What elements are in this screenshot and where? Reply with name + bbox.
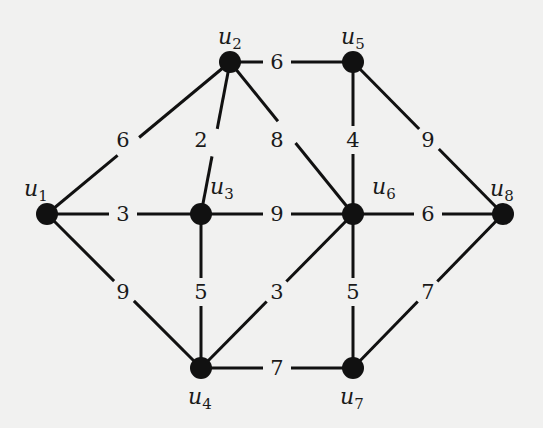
node-label-base: u (490, 176, 504, 201)
node-label-u8: u8 (490, 176, 514, 205)
edge-weight-label: 9 (116, 280, 129, 304)
edge-u2-u6 (230, 62, 353, 214)
node-label-u2: u2 (218, 24, 242, 53)
node-label-subscript: 6 (386, 185, 396, 203)
node-u4 (190, 357, 212, 379)
node-label-base: u (218, 24, 232, 49)
node-label-base: u (210, 174, 224, 199)
edge-weight-label: 3 (270, 280, 283, 304)
edge-weight-label: 9 (270, 202, 283, 226)
edge-segment (134, 301, 201, 368)
node-label-u5: u5 (341, 24, 365, 53)
edge-weight-label: 6 (116, 128, 129, 152)
edge-weight-label: 4 (346, 128, 359, 152)
node-label-base: u (372, 174, 386, 199)
node-label-base: u (341, 24, 355, 49)
node-u7 (342, 357, 364, 379)
node-label-u1: u1 (24, 176, 48, 205)
edge-segment (47, 214, 114, 281)
edge-weight-label: 8 (270, 128, 283, 152)
edge-weight-label: 5 (194, 280, 207, 304)
node-u8 (492, 203, 514, 225)
node-label-base: u (340, 384, 354, 409)
node-labels-layer: u1u2u3u4u5u6u7u8 (24, 24, 514, 413)
node-label-base: u (188, 384, 202, 409)
node-label-u4: u4 (188, 384, 212, 413)
edge-segment (437, 214, 503, 281)
edge-segment (296, 143, 353, 214)
node-label-subscript: 3 (224, 185, 234, 203)
node-label-u7: u7 (340, 384, 364, 413)
weighted-graph-diagram: 639268953749657 u1u2u3u4u5u6u7u8 (0, 0, 543, 428)
node-label-subscript: 5 (355, 35, 365, 53)
edge-segment (47, 155, 118, 214)
node-label-subscript: 1 (38, 187, 48, 205)
edge-weight-label: 2 (194, 128, 207, 152)
node-u2 (219, 51, 241, 73)
node-label-base: u (24, 176, 38, 201)
node-u6 (342, 203, 364, 225)
edge-weight-label: 6 (421, 202, 434, 226)
edge-segment (353, 62, 419, 129)
node-label-subscript: 8 (504, 187, 514, 205)
edge-weight-label: 7 (421, 280, 434, 304)
edge-weight-label: 3 (116, 202, 129, 226)
edge-segment (353, 302, 418, 368)
node-label-subscript: 2 (232, 35, 242, 53)
node-u3 (190, 203, 212, 225)
edge-weight-label: 6 (270, 50, 283, 74)
edge-weight-label: 5 (346, 280, 359, 304)
node-u1 (36, 203, 58, 225)
node-label-subscript: 7 (354, 395, 364, 413)
node-label-u6: u6 (372, 174, 396, 203)
node-label-u3: u3 (210, 174, 234, 203)
node-u5 (342, 51, 364, 73)
edge-segment (201, 301, 267, 368)
edge-weight-label: 7 (270, 356, 283, 380)
edge-weight-label: 9 (421, 128, 434, 152)
edge-segment (286, 214, 353, 282)
node-label-subscript: 4 (202, 395, 212, 413)
